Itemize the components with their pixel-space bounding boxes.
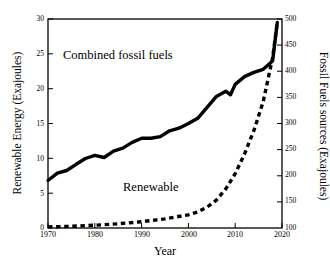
annotation-combined-fossil-fuels: Combined fossil fuels [63,48,173,63]
annotation-renewable: Renewable [123,180,179,195]
chart-figure: Renewable Energy (Exajoules) Fossil Fuel… [0,0,330,270]
plot-area [0,0,330,270]
series-combined-fossil-fuels [48,22,277,180]
